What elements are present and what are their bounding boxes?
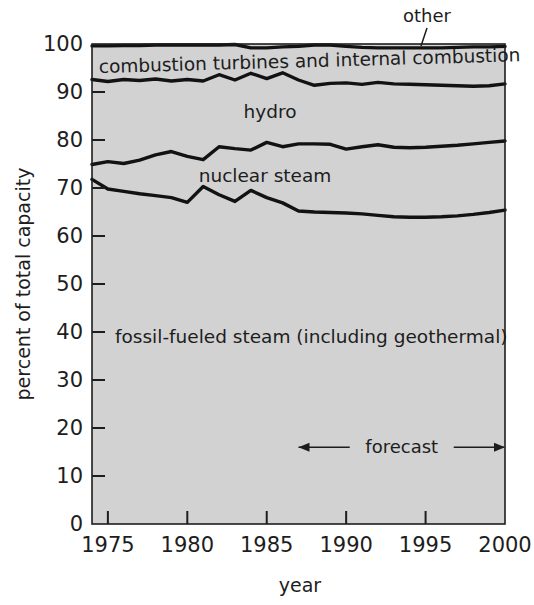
y-tick-label: 60 [56,224,83,248]
y-tick-label: 50 [56,272,83,296]
x-tick-label: 2000 [478,533,531,557]
y-tick-label: 70 [56,176,83,200]
y-axis-title: percent of total capacity [12,168,34,401]
y-tick-label: 20 [56,416,83,440]
y-tick-label: 10 [56,464,83,488]
y-tick-label: 80 [56,128,83,152]
y-tick-label: 100 [43,32,83,56]
x-axis-title: year [279,574,322,596]
series-label-fossil: fossil-fueled steam (including geotherma… [115,326,508,347]
series-label-hydro: hydro [244,101,297,122]
series-label-nuclear: nuclear steam [199,165,332,186]
plot-area-fill [92,44,505,524]
x-tick-label: 1975 [81,533,134,557]
stacked-area-chart: 0102030405060708090100 19751980198519901… [0,0,534,605]
x-tick-label: 1985 [240,533,293,557]
forecast-label: forecast [365,436,438,457]
x-tick-label: 1990 [319,533,372,557]
x-tick-label: 1980 [161,533,214,557]
series-label-other: other [403,5,452,26]
y-tick-label: 40 [56,320,83,344]
y-tick-label: 30 [56,368,83,392]
x-tick-label: 1995 [399,533,452,557]
chart-figure: 0102030405060708090100 19751980198519901… [0,0,534,605]
y-tick-label: 90 [56,80,83,104]
